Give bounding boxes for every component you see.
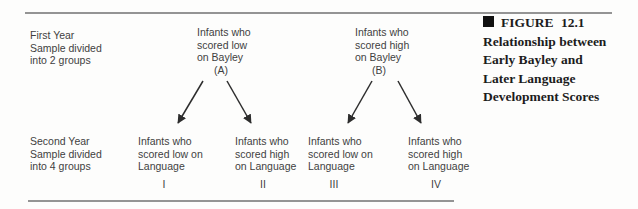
figure-caption: FIGURE 12.1 Relationship between Early B… <box>483 14 623 107</box>
node-text-line: on Language <box>235 160 291 173</box>
node-text-line: Infants who <box>355 26 403 39</box>
node-tag: II <box>235 178 291 191</box>
node-text-line: scored high <box>235 148 291 161</box>
node-language-high-2: Infants who scored high on Language II <box>235 135 291 190</box>
first-year-line: First Year <box>30 29 102 42</box>
black-square-icon <box>483 16 494 27</box>
node-text-line: Infants who <box>235 135 291 148</box>
first-year-label: First Year Sample divided into 2 groups <box>30 29 102 67</box>
node-text-line: on Bayley <box>355 51 403 64</box>
arrow-a-to-ii <box>227 81 251 123</box>
node-text-line: Language <box>308 160 360 173</box>
node-text-line: scored high <box>355 39 403 52</box>
second-year-line: Sample divided <box>30 148 102 161</box>
arrow-a-to-i <box>178 81 203 123</box>
arrow-b-to-iii <box>348 81 372 123</box>
caption-heading: FIGURE 12.1 <box>483 14 623 33</box>
node-text-line: scored low on <box>138 148 190 161</box>
node-bayley-high: Infants who scored high on Bayley (B) <box>355 26 403 76</box>
node-text-line: Infants who <box>408 135 464 148</box>
node-language-high-4: Infants who scored high on Language IV <box>408 135 464 190</box>
caption-title-line: Later Language <box>483 70 623 89</box>
caption-title-line: Development Scores <box>483 88 623 107</box>
arrow-b-to-iv <box>398 81 421 123</box>
first-year-line: into 2 groups <box>30 54 102 67</box>
second-year-label: Second Year Sample divided into 4 groups <box>30 135 102 173</box>
figure-12-1: First Year Sample divided into 2 groups … <box>0 0 638 209</box>
node-tag: (A) <box>197 64 245 77</box>
node-text-line: scored low <box>197 39 245 52</box>
node-text-line: Infants who <box>138 135 190 148</box>
first-year-line: Sample divided <box>30 42 102 55</box>
second-year-line: Second Year <box>30 135 102 148</box>
node-tag: (B) <box>355 64 403 77</box>
node-text-line: scored high <box>408 148 464 161</box>
node-tag: IV <box>408 178 464 191</box>
node-text-line: Infants who <box>308 135 360 148</box>
second-year-line: into 4 groups <box>30 160 102 173</box>
node-text-line: on Bayley <box>197 51 245 64</box>
node-tag: III <box>308 178 360 191</box>
caption-title-line: Relationship between <box>483 33 623 52</box>
node-tag: I <box>138 178 190 191</box>
node-text-line: Infants who <box>197 26 245 39</box>
node-language-low-1: Infants who scored low on Language I <box>138 135 190 190</box>
node-bayley-low: Infants who scored low on Bayley (A) <box>197 26 245 76</box>
node-text-line: scored low on <box>308 148 360 161</box>
caption-title-line: Early Bayley and <box>483 51 623 70</box>
node-language-low-3: Infants who scored low on Language III <box>308 135 360 190</box>
bottom-rule <box>28 200 454 202</box>
node-text-line: on Language <box>408 160 464 173</box>
caption-label: FIGURE 12.1 <box>501 15 585 30</box>
node-text-line: Language <box>138 160 190 173</box>
